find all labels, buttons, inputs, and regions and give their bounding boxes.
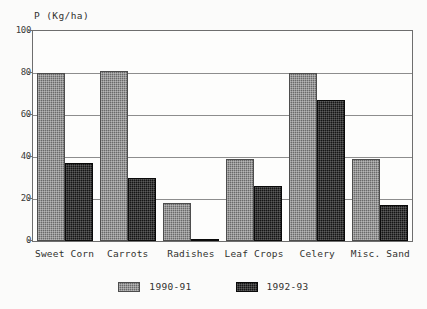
y-axis-tick-label: 40 <box>4 151 31 161</box>
y-axis-tick-label: 80 <box>4 67 31 77</box>
legend-label: 1990-91 <box>149 281 191 292</box>
bar <box>65 163 93 241</box>
bar <box>226 159 254 241</box>
bar <box>289 73 317 241</box>
legend-entry: 1992-93 <box>236 281 309 292</box>
y-axis-tick-label: 20 <box>4 193 31 203</box>
x-axis-category-label: Radishes <box>167 248 214 259</box>
bar-chart-figure: P (Kg/ha) 020406080100 Sweet CornCarrots… <box>0 0 427 309</box>
bar <box>128 178 156 241</box>
bar <box>191 239 219 241</box>
black-hatch-swatch-icon <box>236 282 258 292</box>
y-axis-tick-label: 0 <box>4 235 31 245</box>
x-axis-category-labels: Sweet CornCarrotsRadishesLeaf CropsCeler… <box>33 248 412 264</box>
y-axis-tick-label: 60 <box>4 109 31 119</box>
x-axis-category-label: Misc. Sand <box>351 248 410 259</box>
gray-hatch-swatch-icon <box>118 282 140 292</box>
bar <box>37 73 65 241</box>
y-axis-tick-label: 100 <box>4 25 31 35</box>
legend-entry: 1990-91 <box>118 281 191 292</box>
legend-label: 1992-93 <box>267 281 309 292</box>
x-axis-category-label: Celery <box>299 248 335 259</box>
x-axis-category-label: Sweet Corn <box>35 248 94 259</box>
chart-legend: 1990-911992-93 <box>0 281 427 292</box>
x-axis-category-label: Leaf Crops <box>224 248 283 259</box>
bar <box>254 186 282 241</box>
bar <box>100 71 128 241</box>
y-axis-title: P (Kg/ha) <box>34 10 89 21</box>
y-axis: 020406080100 <box>0 30 31 242</box>
bars-layer <box>33 31 412 241</box>
bar <box>317 100 345 241</box>
bar <box>380 205 408 241</box>
bar <box>163 203 191 241</box>
bar <box>352 159 380 241</box>
x-axis-category-label: Carrots <box>107 248 148 259</box>
